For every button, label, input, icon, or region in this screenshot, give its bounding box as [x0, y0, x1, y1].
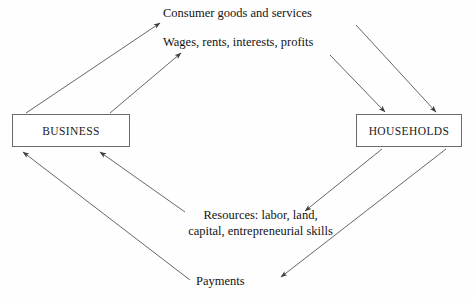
arrow-households-to-resources	[305, 149, 382, 211]
node-business-label: BUSINESS	[42, 125, 100, 137]
flow-label-resources-line2: capital, entrepreneurial skills	[188, 224, 333, 238]
node-business[interactable]: BUSINESS	[12, 114, 130, 147]
node-households-label: HOUSEHOLDS	[369, 125, 450, 137]
flow-label-payments: Payments	[196, 274, 245, 290]
node-households[interactable]: HOUSEHOLDS	[356, 114, 462, 147]
arrow-business-to-wages	[110, 53, 181, 113]
arrow-resources-to-business	[100, 152, 185, 212]
arrow-consumer-goods-to-households	[356, 25, 436, 112]
flow-label-resources: Resources: labor, land, capital, entrepr…	[148, 208, 373, 239]
flow-label-resources-line1: Resources: labor, land,	[203, 208, 317, 222]
flow-label-wages: Wages, rents, interests, profits	[163, 35, 313, 51]
flow-label-consumer-goods: Consumer goods and services	[163, 6, 312, 22]
arrow-wages-to-households	[330, 55, 385, 112]
circular-flow-diagram: BUSINESS HOUSEHOLDS Consumer goods and s…	[0, 0, 475, 301]
arrow-business-to-consumer-goods	[26, 23, 160, 113]
